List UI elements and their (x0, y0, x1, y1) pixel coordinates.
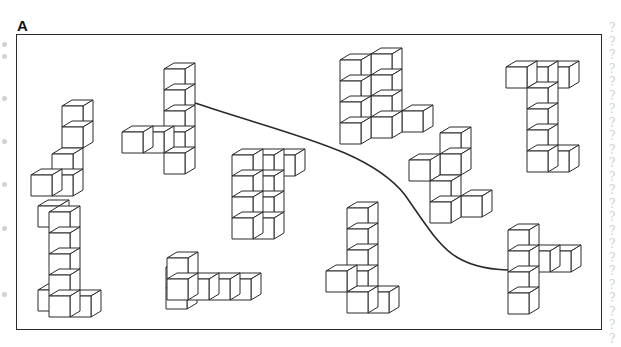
shape-10 (508, 224, 581, 314)
binding-mark-icon: ? (609, 49, 615, 61)
shape-4 (340, 48, 433, 144)
binding-mark-icon: ? (609, 76, 615, 88)
binding-mark-icon: ? (609, 144, 615, 156)
binding-mark-icon: ? (609, 63, 615, 75)
binding-mark-icon: ? (609, 22, 615, 34)
binding-mark-icon: ? (609, 184, 615, 196)
shape-2 (122, 63, 195, 174)
shape-9 (326, 202, 399, 313)
binding-mark-icon: ? (609, 238, 615, 250)
binding-mark-icon: ? (609, 103, 615, 115)
binding-mark-icon: ? (609, 292, 615, 304)
right-binding-marks: ???????????????????????? (608, 0, 621, 347)
shape-7 (38, 200, 101, 317)
binding-mark-icon: ? (609, 90, 615, 102)
binding-mark-icon: ? (609, 211, 615, 223)
binding-mark-icon: ? (609, 306, 615, 318)
shape-5 (409, 127, 492, 223)
binding-mark-icon: ? (609, 130, 615, 142)
binding-mark-icon: ? (609, 333, 615, 345)
binding-mark-icon: ? (609, 279, 615, 291)
binding-mark-icon: ? (609, 225, 615, 237)
binding-mark-icon: ? (609, 319, 615, 331)
binding-mark-icon: ? (609, 117, 615, 129)
binding-mark-icon: ? (609, 157, 615, 169)
shape-3 (232, 149, 305, 239)
binding-mark-icon: ? (609, 198, 615, 210)
shape-8 (166, 252, 261, 309)
binding-mark-icon: ? (609, 265, 615, 277)
binding-mark-icon: ? (609, 171, 615, 183)
shapes-layer (31, 48, 581, 317)
binding-mark-icon: ? (609, 36, 615, 48)
binding-mark-icon: ? (609, 252, 615, 264)
shape-6 (506, 61, 579, 172)
shape-1 (31, 100, 93, 196)
cube-assemblies-diagram (0, 0, 621, 347)
